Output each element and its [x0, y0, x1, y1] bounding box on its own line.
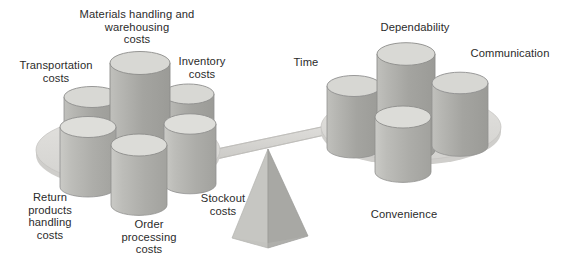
cylinder-time	[327, 76, 381, 159]
cylinder-stockout-costs	[164, 114, 216, 194]
label-transportation-costs: Transportation costs	[8, 59, 104, 84]
label-inventory-costs: Inventory costs	[169, 55, 235, 80]
label-order-processing-costs: Order processing costs	[108, 218, 190, 256]
label-dependability: Dependability	[363, 21, 467, 34]
label-materials-handling-costs: Materials handling and warehousing costs	[72, 8, 202, 46]
cylinder-communication	[432, 72, 488, 156]
cylinder-order-processing-costs	[111, 134, 167, 215]
label-stockout-costs: Stockout costs	[190, 192, 256, 217]
label-convenience: Convenience	[357, 208, 451, 221]
cylinder-return-products-handling-costs	[60, 117, 116, 198]
label-return-products-handling-costs: Return products handling costs	[14, 191, 86, 241]
diagram-canvas: Materials handling and warehousing costs…	[0, 0, 564, 278]
label-communication: Communication	[460, 47, 560, 60]
label-time: Time	[285, 56, 327, 69]
cylinder-convenience	[375, 106, 431, 182]
